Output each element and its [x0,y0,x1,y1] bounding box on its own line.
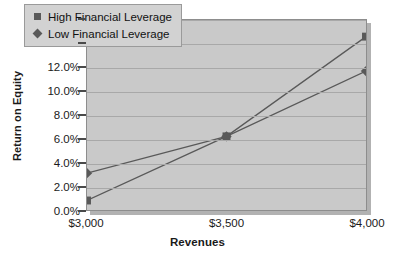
x-axis-ticklabel: $3,500 [209,217,244,229]
series-marker-diamond [86,168,92,178]
x-axis-ticklabel: $4,000 [349,217,384,229]
y-axis-tickmark [78,90,86,92]
series-line [87,71,366,173]
series-line [87,37,366,201]
y-axis-ticklabel: 2.0% [26,181,80,193]
y-axis-tickmark [78,18,86,20]
legend-square-marker-icon [30,13,44,20]
y-axis-ticklabel: 6.0% [26,133,80,145]
y-axis-tickmark [78,42,86,44]
x-axis-title: Revenues [0,236,395,248]
y-axis-tickmark [78,186,86,188]
legend-diamond-marker-icon [30,30,44,37]
plot-area [86,19,367,211]
y-axis-tickmark [78,114,86,116]
y-axis-title: Return on Equity [11,36,23,196]
y-axis-ticklabel: 8.0% [26,109,80,121]
y-axis-tickmark [78,162,86,164]
legend-item-high-financial-leverage: High Financial Leverage [30,8,172,25]
gridline [87,188,366,189]
legend-item-label: High Financial Leverage [48,11,172,23]
gridline [87,68,366,69]
y-axis-ticklabel: 10.0% [26,85,80,97]
y-axis-tickmark [78,210,86,212]
series-marker-square [362,33,367,41]
y-axis-ticklabel: 0.0% [26,205,80,217]
y-axis-ticklabel: 4.0% [26,157,80,169]
y-axis-tickmark [78,138,86,140]
series-marker-square [86,197,91,205]
y-axis-tickmark [78,66,86,68]
gridline [87,164,366,165]
legend-item-label: Low Financial Leverage [48,28,169,40]
legend-item-low-financial-leverage: Low Financial Leverage [30,25,172,42]
gridline [87,116,366,117]
chart-legend: High Financial Leverage Low Financial Le… [24,4,182,47]
gridline [87,140,366,141]
chart-container: Return on Equity 0.0%2.0%4.0%6.0%8.0%10.… [0,0,395,259]
x-axis-ticklabel: $3,000 [68,217,103,229]
gridline [87,92,366,93]
y-axis-ticklabel: 12.0% [26,61,80,73]
